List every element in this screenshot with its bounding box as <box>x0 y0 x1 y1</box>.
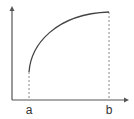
function-graph-diagram: a b <box>0 0 134 119</box>
function-curve <box>29 12 109 72</box>
y-axis-arrow-icon <box>10 6 15 11</box>
label-b: b <box>106 103 113 117</box>
label-a: a <box>26 103 33 117</box>
x-axis-arrow-icon <box>124 98 129 103</box>
